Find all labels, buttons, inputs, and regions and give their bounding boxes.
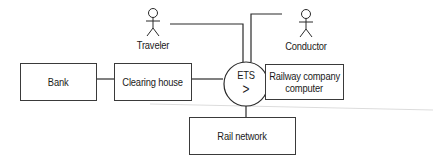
faint-divider: [150, 104, 433, 110]
traveler-label: Traveler: [132, 39, 175, 51]
ets-label: ETS: [232, 69, 259, 81]
ets-symbol: >: [232, 82, 259, 96]
rail-network-box: Rail network: [189, 117, 296, 155]
conductor-actor-icon: [299, 10, 313, 38]
railway-company-label-line2: computer: [286, 82, 324, 94]
traveler-ets-connection: [170, 24, 243, 62]
bank-label: Bank: [48, 76, 69, 88]
clearing-house-box: Clearing house: [114, 63, 192, 101]
bank-box: Bank: [20, 63, 97, 101]
traveler-actor-icon: [146, 9, 160, 37]
rail-network-label: Rail network: [218, 130, 267, 142]
clearing-house-label: Clearing house: [123, 76, 184, 88]
railway-company-label-line1: Railway company: [269, 70, 340, 82]
conductor-ets-connection: [251, 14, 282, 62]
railway-company-computer-box: Railway company computer: [265, 64, 344, 100]
conductor-label: Conductor: [282, 40, 330, 52]
